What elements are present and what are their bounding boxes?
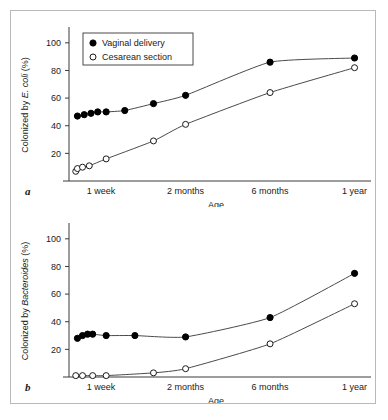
- x-tick-label: 2 months: [167, 382, 205, 392]
- data-point-open: [267, 90, 273, 96]
- data-point-filled: [351, 270, 357, 276]
- y-tick-label: 80: [51, 262, 61, 272]
- data-point-filled: [122, 107, 128, 113]
- x-axis-title: Age: [208, 396, 224, 403]
- filled-circle-icon: [90, 40, 96, 46]
- plot-area-a: 204060801001 week2 months6 months1 yearA…: [11, 11, 377, 207]
- y-axis-title: Colonized by Bacteroides (%): [20, 242, 30, 361]
- y-axis-title-taxon: E. coli: [20, 73, 30, 99]
- y-axis-title-suffix: (%): [20, 242, 30, 259]
- data-point-filled: [81, 112, 87, 118]
- data-point-filled: [267, 314, 273, 320]
- data-point-open: [80, 373, 86, 379]
- y-tick-label: 60: [51, 289, 61, 299]
- panel-tag: a: [25, 185, 31, 197]
- x-tick-label: 1 week: [87, 186, 116, 196]
- figure-frame: 204060801001 week2 months6 months1 yearA…: [10, 10, 376, 404]
- y-tick-label: 60: [51, 93, 61, 103]
- data-point-filled: [132, 332, 138, 338]
- data-point-open: [86, 163, 92, 169]
- y-axis-title-suffix: (%): [20, 57, 30, 74]
- data-point-filled: [103, 332, 109, 338]
- y-tick-label: 100: [46, 38, 61, 48]
- panel-tag: b: [25, 381, 31, 393]
- series-line-1: [77, 273, 354, 338]
- chart-panel-a: 204060801001 week2 months6 months1 yearA…: [11, 11, 377, 207]
- data-point-open: [103, 156, 109, 162]
- y-tick-label: 20: [51, 345, 61, 355]
- data-point-filled: [267, 59, 273, 65]
- data-point-open: [183, 366, 189, 372]
- x-axis-title: Age: [208, 200, 224, 207]
- x-tick-label: 1 year: [342, 382, 367, 392]
- series-line-2: [76, 304, 355, 376]
- x-tick-label: 6 months: [252, 382, 290, 392]
- y-tick-label: 40: [51, 317, 61, 327]
- data-point-open: [150, 138, 156, 144]
- data-point-open: [150, 370, 156, 376]
- data-point-open: [103, 373, 109, 379]
- y-axis-title-prefix: Colonized by: [20, 306, 30, 361]
- x-tick-label: 2 months: [167, 186, 205, 196]
- data-point-open: [80, 164, 86, 170]
- plot-area-b: 204060801001 week2 months6 months1 yearA…: [11, 207, 377, 403]
- data-point-open: [352, 65, 358, 71]
- data-point-filled: [182, 92, 188, 98]
- data-point-open: [267, 341, 273, 347]
- data-point-filled: [95, 109, 101, 115]
- open-circle-icon: [90, 54, 96, 60]
- legend-label: Vaginal delivery: [102, 38, 165, 48]
- x-tick-label: 6 months: [252, 186, 290, 196]
- chart-panel-b: 204060801001 week2 months6 months1 yearA…: [11, 207, 377, 403]
- y-tick-label: 100: [46, 234, 61, 244]
- data-point-filled: [103, 109, 109, 115]
- y-tick-label: 40: [51, 121, 61, 131]
- y-tick-label: 80: [51, 66, 61, 76]
- data-point-filled: [351, 55, 357, 61]
- data-point-open: [90, 373, 96, 379]
- legend-label: Cesarean section: [102, 52, 172, 62]
- data-point-filled: [74, 113, 80, 119]
- y-axis-title-taxon: Bacteroides: [20, 258, 30, 306]
- x-tick-label: 1 year: [342, 186, 367, 196]
- data-point-open: [73, 373, 79, 379]
- y-tick-label: 20: [51, 149, 61, 159]
- data-point-filled: [88, 110, 94, 116]
- y-axis-title-prefix: Colonized by: [20, 98, 30, 153]
- data-point-open: [183, 121, 189, 127]
- x-tick-label: 1 week: [87, 382, 116, 392]
- data-point-filled: [182, 334, 188, 340]
- y-axis-title: Colonized by E. coli (%): [20, 57, 30, 153]
- series-line-1: [77, 58, 354, 116]
- data-point-filled: [150, 101, 156, 107]
- data-point-open: [352, 301, 358, 307]
- data-point-filled: [90, 331, 96, 337]
